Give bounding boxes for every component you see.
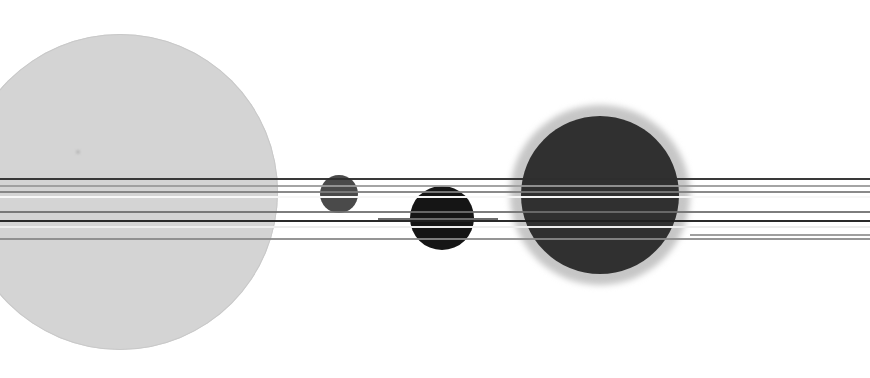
streak-line-8 bbox=[0, 238, 870, 239]
partial-streak-left bbox=[378, 218, 498, 219]
streak-line-1 bbox=[0, 178, 870, 179]
streak-line-6 bbox=[0, 220, 870, 222]
streak-line-7 bbox=[0, 226, 870, 228]
streak-line-3 bbox=[0, 191, 870, 193]
streak-line-5 bbox=[0, 211, 870, 213]
streak-line-2 bbox=[0, 185, 870, 186]
scene-canvas: Greyscale astronomical composite showing… bbox=[0, 0, 870, 378]
partial-streak-right bbox=[690, 234, 870, 235]
streak-line-4 bbox=[0, 196, 870, 199]
streaks-layer bbox=[0, 0, 870, 378]
